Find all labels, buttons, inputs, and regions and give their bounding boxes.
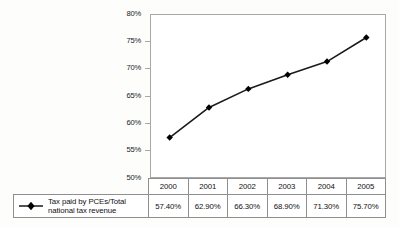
data-table-value-row: 57.40% 62.90% 66.30% 68.90% 71.30% 75.70… <box>148 194 386 218</box>
table-value-cell: 66.30% <box>228 195 268 217</box>
y-tick-label-75: 75% <box>113 37 141 45</box>
data-point-2003 <box>284 71 290 77</box>
table-value-cell: 62.90% <box>189 195 229 217</box>
y-tick-label-60: 60% <box>113 119 141 127</box>
table-value-cell: 75.70% <box>347 195 386 217</box>
chart-figure: 80% 75% 70% 65% 60% 55% 50% 2000 2001 20… <box>0 0 399 228</box>
y-tick-label-70: 70% <box>113 64 141 72</box>
table-header-cell: 2001 <box>189 179 229 194</box>
plot-area <box>150 14 386 178</box>
y-tick-label-55: 55% <box>113 146 141 154</box>
diamond-marker-icon <box>14 195 48 217</box>
legend-label-line1: Tax paid by PCEs/Total <box>48 197 126 206</box>
data-table-header-row: 2000 2001 2002 2003 2004 2005 <box>148 178 386 194</box>
table-header-cell: 2000 <box>149 179 189 194</box>
series-line-tax-paid-by-pces <box>150 14 386 178</box>
table-header-cell: 2002 <box>228 179 268 194</box>
legend: Tax paid by PCEs/Total national tax reve… <box>13 194 148 218</box>
y-tick-label-65: 65% <box>113 92 141 100</box>
y-tick-label-80: 80% <box>113 10 141 18</box>
y-tick-label-50: 50% <box>113 174 141 182</box>
table-header-cell: 2003 <box>268 179 308 194</box>
legend-label-line2: national tax revenue <box>48 206 116 215</box>
data-point-2002 <box>245 86 251 92</box>
table-header-cell: 2005 <box>347 179 386 194</box>
legend-label: Tax paid by PCEs/Total national tax reve… <box>48 197 148 216</box>
table-value-cell: 57.40% <box>149 195 189 217</box>
table-value-cell: 68.90% <box>268 195 308 217</box>
table-value-cell: 71.30% <box>307 195 347 217</box>
series-polyline <box>170 38 367 138</box>
table-header-cell: 2004 <box>307 179 347 194</box>
series-markers <box>166 34 369 140</box>
